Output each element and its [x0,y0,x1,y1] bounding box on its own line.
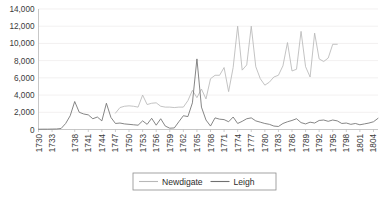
y-axis-tick-label: 6,000 [14,74,35,83]
x-axis-tick-label: 1795 [329,134,338,153]
chart-container: 02,0004,0006,0008,00010,00012,00014,000 … [0,0,383,199]
x-axis-tick-label: 1765 [193,134,202,153]
line-chart: 02,0004,0006,0008,00010,00012,00014,000 … [0,0,383,199]
x-axis-tick-label: 1801 [356,134,365,153]
x-axis-tick-label: 1798 [342,134,351,153]
x-axis-tick-label: 1753 [139,134,148,153]
x-axis-tick-label: 1741 [84,134,93,153]
x-axis-tick-label: 1771 [220,134,229,153]
x-axis-tick-label: 1744 [98,134,107,153]
series-line-leigh [39,59,379,129]
x-axis-tick-label: 1762 [179,134,188,153]
x-axis-tick-label: 1786 [288,134,297,153]
x-axis-tick-label: 1774 [234,134,243,153]
y-axis-tick-label: 0 [30,126,35,135]
y-axis-tick-label: 14,000 [9,5,34,14]
y-axis-tick-label: 12,000 [9,22,34,31]
x-axis-tick-label: 1804 [369,134,378,153]
series-line-newdigate [115,26,337,113]
x-axis-tick-label: 1750 [125,134,134,153]
axes-group [39,9,379,130]
x-axis-tick-label: 1780 [261,134,270,153]
chart-legend: NewdigateLeigh [133,173,276,190]
x-axis-tick-label: 1792 [315,134,324,153]
x-axis-tick-label: 1730 [35,134,44,153]
x-axis-tick-label: 1789 [302,134,311,153]
y-axis-labels-group: 02,0004,0006,0008,00010,00012,00014,000 [9,5,34,135]
x-axis-labels-group: 1730173317381741174417471750175317561759… [35,134,379,153]
x-axis-tick-label: 1738 [71,134,80,153]
gridlines-group [39,9,379,112]
x-axis-tick-label: 1759 [166,134,175,153]
legend-label-newdigate: Newdigate [162,177,203,187]
x-axis-tick-label: 1783 [274,134,283,153]
x-axis-tick-label: 1747 [111,134,120,153]
x-axis-tick-label: 1768 [207,134,216,153]
x-axis-tick-label: 1733 [48,134,57,153]
legend-label-leigh: Leigh [234,177,255,187]
y-axis-tick-label: 4,000 [14,91,35,100]
x-axis-tick-label: 1777 [247,134,256,153]
y-axis-tick-label: 10,000 [9,39,34,48]
y-axis-tick-label: 2,000 [14,108,35,117]
y-axis-tick-label: 8,000 [14,57,35,66]
x-axis-tick-label: 1756 [152,134,161,153]
